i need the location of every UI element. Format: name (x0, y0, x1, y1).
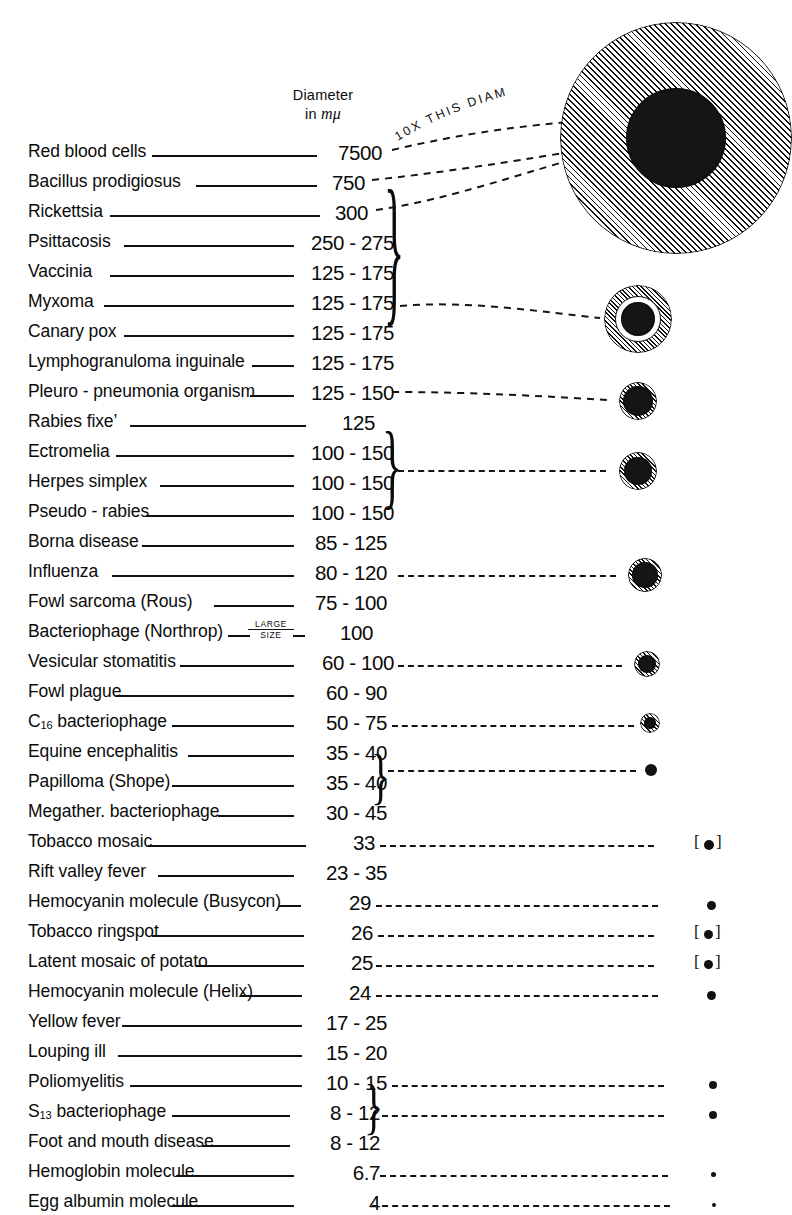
row-label: Vesicular stomatitis (28, 651, 176, 672)
row-value: 100 - 150 (240, 501, 394, 525)
row-label: Bacillus prodigiosus (28, 171, 181, 192)
table-row: Borna disease 85 - 125 (0, 531, 784, 561)
row-label: Fowl plague (28, 681, 121, 702)
row-value: 15 - 20 (240, 1041, 387, 1065)
leader-egg-albumin (372, 1205, 670, 1207)
glyph-pleuro-pneumonia (619, 382, 657, 420)
row-value: 23 - 35 (240, 861, 387, 885)
row-label: Herpes simplex (28, 471, 147, 492)
glyph-hatched-ring (628, 558, 662, 592)
glyph-vesicular-stomatitis (634, 651, 660, 677)
leader-hemocyanin-busycon (376, 905, 658, 907)
glyph-hatched-ring (619, 452, 657, 490)
row-label: Tobacco ringspot (28, 921, 159, 942)
row-value: 125 - 175 (240, 291, 394, 315)
row-label: Yellow fever (28, 1011, 121, 1032)
glyph-dot-tobacco-ringspot (704, 930, 713, 939)
glyph-c16-bacteriophage (640, 713, 660, 733)
leader-poliomyelitis (392, 1085, 664, 1087)
glyph-bracket-latent-mosaic: [ (694, 953, 700, 970)
row-value: 125 (240, 411, 375, 435)
row-label: Latent mosaic of potato (28, 951, 208, 972)
glyph-dark-core (621, 302, 655, 336)
table-row: Foot and mouth disease 8 - 12 (0, 1131, 784, 1161)
row-label: Megather. bacteriophage (28, 801, 219, 822)
row-value: 125 - 175 (240, 321, 394, 345)
leader-equine-group (388, 770, 636, 772)
row-value: 125 - 150 (240, 381, 394, 405)
glyph-dark-core (638, 655, 656, 673)
glyph-dot-s13-group (709, 1111, 717, 1119)
row-label: Equine encephalitis (28, 741, 178, 762)
row-value: 75 - 100 (240, 591, 387, 615)
leader-s13-group (382, 1115, 664, 1117)
row-value: 7500 (240, 141, 382, 165)
row-label: Poliomyelitis (28, 1071, 124, 1092)
glyph-psittacosis-group (604, 285, 672, 353)
leader-latent-mosaic (376, 965, 654, 967)
row-value: 6.7 (240, 1161, 380, 1185)
row-label: C16 bacteriophage (28, 711, 167, 732)
row-value: 24 (240, 981, 371, 1005)
row-value: 17 - 25 (240, 1011, 387, 1035)
row-value: 100 (240, 621, 373, 645)
row-value: 85 - 125 (240, 531, 387, 555)
row-label: Canary pox (28, 321, 117, 342)
glyph-bracket-tobacco-mosaic: [ (694, 833, 700, 850)
glyph-dot-hemoglobin (711, 1172, 716, 1177)
glyph-hatched-ring (634, 651, 660, 677)
row-label: Hemoglobin molecule (28, 1161, 194, 1182)
group-brace-ectromelia: } (382, 418, 402, 513)
header-line-2: in mμ (268, 104, 378, 124)
leader-ectromelia-group (398, 470, 606, 472)
glyph-bracket-tobacco-ringspot: [ (694, 923, 700, 940)
table-row: Influenza 80 - 120 (0, 561, 784, 591)
leader-tobacco-ringspot (378, 935, 654, 937)
row-label: Pleuro - pneumonia organism (28, 381, 255, 402)
row-value: 29 (240, 891, 371, 915)
table-row: Pleuro - pneumonia organism 125 - 150 (0, 381, 784, 411)
glyph-bracket-tobacco-ringspot-close: ] (715, 923, 721, 940)
table-row: Lymphogranuloma inguinale 125 - 175 (0, 351, 784, 381)
row-label: Egg albumin molecule (28, 1191, 198, 1212)
row-value: 300 (240, 201, 368, 225)
row-value: 250 - 275 (240, 231, 394, 255)
glyph-influenza (628, 558, 662, 592)
leader-hemoglobin (380, 1175, 668, 1177)
row-label: Fowl sarcoma (Rous) (28, 591, 192, 612)
glyph-dark-core (632, 562, 658, 588)
row-value: 750 (240, 171, 365, 195)
group-brace-psittacosis: } (384, 166, 404, 332)
row-label: Influenza (28, 561, 98, 582)
glyph-ectromelia-group (619, 452, 657, 490)
glyph-bracket-tobacco-mosaic-close: ] (716, 833, 722, 850)
glyph-dot-poliomyelitis (709, 1081, 717, 1089)
row-label: Rickettsia (28, 201, 103, 222)
header-line-1: Diameter (268, 86, 378, 104)
row-value: 60 - 90 (240, 681, 387, 705)
glyph-hatched-ring (560, 22, 792, 254)
table-row: Louping ill 15 - 20 (0, 1041, 784, 1071)
row-label: Red blood cells (28, 141, 146, 162)
row-value: 35 - 40 (240, 741, 387, 765)
row-label: Rift valley fever (28, 861, 146, 882)
table-row: Egg albumin molecule 4 (0, 1191, 784, 1215)
glyph-hatched-ring (640, 713, 660, 733)
glyph-hatched-ring (619, 382, 657, 420)
table-row: Megather. bacteriophage 30 - 45 (0, 801, 784, 831)
table-row: Fowl plague 60 - 90 (0, 681, 784, 711)
row-label: S13 bacteriophage (28, 1101, 166, 1122)
row-label: Louping ill (28, 1041, 106, 1062)
row-label: Vaccinia (28, 261, 92, 282)
row-value: 35 - 40 (240, 771, 387, 795)
row-value: 60 - 100 (240, 651, 394, 675)
leader-hemocyanin-helix (376, 995, 658, 997)
row-label: Pseudo - rabies (28, 501, 149, 522)
glyph-dark-core (644, 717, 656, 729)
unit-millimicron: mμ (321, 105, 341, 122)
group-brace-equine: } (371, 746, 390, 808)
row-value: 26 (240, 921, 373, 945)
glyph-bracket-latent-mosaic-close: ] (715, 953, 721, 970)
row-label: Psittacosis (28, 231, 111, 252)
row-label: Tobacco mosaic (28, 831, 152, 852)
